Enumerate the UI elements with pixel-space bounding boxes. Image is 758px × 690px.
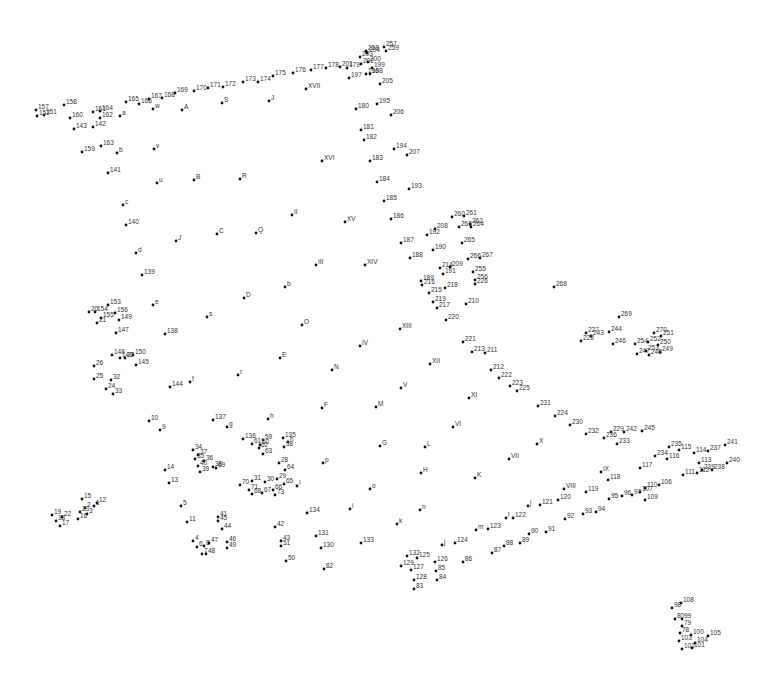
dot-point: b bbox=[116, 146, 123, 155]
dot-label: 156 bbox=[117, 306, 128, 313]
dot-label: 170 bbox=[196, 84, 207, 91]
dot-marker bbox=[432, 301, 435, 304]
dot-label: 171 bbox=[210, 81, 221, 88]
dot-marker bbox=[153, 148, 156, 151]
dot-marker bbox=[569, 424, 572, 427]
dot-marker bbox=[458, 226, 461, 229]
dot-marker bbox=[196, 546, 199, 549]
dot-label: 228 bbox=[583, 334, 594, 341]
dot-label: 247 bbox=[639, 347, 650, 354]
dot-point: 213 bbox=[471, 345, 486, 354]
dot-label: 127 bbox=[413, 563, 424, 570]
dot-marker bbox=[406, 154, 409, 157]
dot-label: 139 bbox=[144, 268, 155, 275]
dot-marker bbox=[135, 364, 138, 367]
dot-marker bbox=[439, 267, 442, 270]
dot-label: 86 bbox=[465, 555, 473, 562]
dot-marker bbox=[193, 179, 196, 182]
dot-point: 165 bbox=[125, 95, 140, 104]
dot-marker bbox=[429, 363, 432, 366]
dot-point: 240 bbox=[726, 456, 741, 465]
dot-label: 145 bbox=[138, 358, 149, 365]
dot-marker bbox=[410, 569, 413, 572]
dot-label: 211 bbox=[487, 346, 498, 353]
dot-marker bbox=[658, 484, 661, 487]
dot-point: 185 bbox=[383, 194, 398, 203]
dot-marker bbox=[296, 485, 299, 488]
dot-point: XI bbox=[468, 391, 478, 400]
dot-label: 181 bbox=[363, 123, 374, 130]
dot-marker bbox=[174, 92, 177, 95]
dot-label: 32 bbox=[113, 373, 121, 380]
dot-label: 119 bbox=[588, 485, 599, 492]
dot-marker bbox=[152, 108, 155, 111]
dot-point: 211 bbox=[484, 346, 498, 355]
dot-marker bbox=[363, 139, 366, 142]
dot-label: I bbox=[299, 479, 301, 486]
dot-label: 96 bbox=[624, 489, 632, 496]
dot-marker bbox=[35, 109, 38, 112]
dot-marker bbox=[369, 73, 372, 76]
dot-marker bbox=[580, 340, 583, 343]
dot-marker bbox=[217, 516, 220, 519]
dot-point: E bbox=[279, 351, 287, 360]
dot-marker bbox=[474, 477, 477, 480]
dot-point: 242 bbox=[623, 425, 638, 434]
dot-point: D bbox=[243, 291, 251, 300]
dot-label: 87 bbox=[494, 546, 502, 553]
dot-label: 167 bbox=[151, 92, 162, 99]
dot-label: 11 bbox=[189, 515, 196, 522]
dot-to-dot-canvas: 157151152158160143161164162142a165166167… bbox=[0, 0, 758, 690]
dot-marker bbox=[536, 443, 539, 446]
dot-label: 232 bbox=[588, 427, 599, 434]
dot-marker bbox=[470, 226, 473, 229]
dot-point: 85 bbox=[435, 564, 446, 573]
dot-marker bbox=[564, 518, 567, 521]
dot-marker bbox=[545, 531, 548, 534]
dot-label: 160 bbox=[72, 111, 83, 118]
dot-marker bbox=[226, 426, 229, 429]
dot-point: 135 bbox=[282, 431, 297, 440]
dot-point: XVII bbox=[305, 82, 321, 91]
dot-point: XIV bbox=[364, 258, 379, 267]
dot-label: 73 bbox=[277, 488, 285, 495]
dot-point: 183 bbox=[369, 154, 384, 163]
dot-marker bbox=[444, 287, 447, 290]
dot-marker bbox=[498, 377, 501, 380]
dot-label: 111 bbox=[685, 468, 695, 475]
dot-label: 195 bbox=[379, 97, 390, 104]
dot-point: 142 bbox=[92, 120, 107, 129]
dot-marker bbox=[221, 528, 224, 531]
dot-label: 121 bbox=[542, 498, 553, 505]
dot-label: 69 bbox=[218, 461, 226, 468]
dot-label: 100 bbox=[693, 628, 704, 635]
dot-point: H bbox=[420, 466, 428, 475]
dot-marker bbox=[77, 518, 80, 521]
dot-marker bbox=[434, 561, 437, 564]
dot-point: 237 bbox=[707, 444, 722, 453]
dot-label: 17 bbox=[62, 519, 70, 526]
dot-marker bbox=[400, 565, 403, 568]
dot-marker bbox=[284, 286, 287, 289]
dot-point: 246 bbox=[612, 337, 627, 346]
dot-marker bbox=[435, 570, 438, 573]
dot-point: R bbox=[239, 172, 247, 181]
dot-marker bbox=[474, 279, 477, 282]
dot-marker bbox=[272, 489, 275, 492]
dot-marker bbox=[441, 544, 444, 547]
dot-marker bbox=[55, 520, 58, 523]
dot-label: 234 bbox=[657, 449, 668, 456]
dot-label: 49 bbox=[229, 541, 237, 548]
dot-marker bbox=[416, 557, 419, 560]
dot-marker bbox=[99, 110, 102, 113]
dot-label: 188 bbox=[412, 251, 423, 258]
dot-point: 30 bbox=[264, 475, 275, 484]
dot-marker bbox=[243, 297, 246, 300]
dot-marker bbox=[668, 446, 671, 449]
dot-point: 126 bbox=[434, 555, 449, 564]
dot-marker bbox=[400, 242, 403, 245]
dot-point: o bbox=[369, 482, 376, 491]
dot-marker bbox=[563, 488, 566, 491]
dot-point: 210 bbox=[465, 297, 480, 306]
dot-marker bbox=[420, 472, 423, 475]
